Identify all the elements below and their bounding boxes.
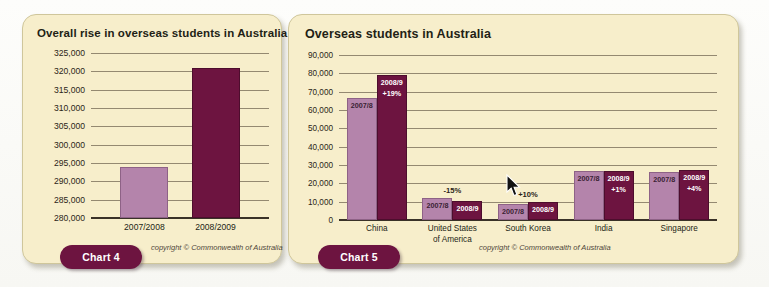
chart5-xtick-line: India [595, 224, 613, 235]
chart4-ytick-label: 305,000 [29, 121, 85, 131]
chart5-xtick-line: United States [428, 224, 477, 235]
chart5-xtick-line: South Korea [505, 224, 551, 235]
chart5-copyright: copyright © Commonwealth of Australia [479, 243, 611, 252]
chart5-xtick-line: of America [428, 235, 477, 246]
chart5-gridline [339, 55, 717, 56]
chart5-xtick-label: United Statesof America [428, 224, 477, 245]
chart4-ytick-label: 290,000 [29, 176, 85, 186]
chart4-ytick-label: 295,000 [29, 158, 85, 168]
chart5-bar[interactable]: 2007/8 [574, 171, 604, 220]
chart5-ytick-label: 40,000 [289, 142, 333, 151]
chart4-gridline [91, 145, 269, 146]
chart5-xtick-line: Singapore [661, 224, 698, 235]
chart5-ytick-label: 10,000 [289, 197, 333, 206]
chart4-bar[interactable] [192, 68, 240, 218]
chart5-bar[interactable]: 2007/8 [649, 172, 679, 220]
chart5-bar-year-label: 2008/9 [529, 205, 557, 214]
chart5-ytick-label: 50,000 [289, 124, 333, 133]
chart5-group-change-label: -15% [444, 186, 462, 195]
chart5-xtick-line: China [366, 224, 387, 235]
chart5-badge: Chart 5 [318, 245, 400, 269]
chart4-xtick-label: 2008/2009 [195, 222, 236, 233]
chart5-bar-year-label: 2007/8 [348, 101, 376, 110]
chart5-xtick-label: Singapore [661, 224, 698, 235]
chart5-bar[interactable]: 2007/8 [347, 98, 377, 220]
chart4-plot-area: 325,000320,000315,000310,000305,000300,0… [91, 53, 269, 218]
chart4-gridline [91, 163, 269, 164]
chart4-ytick-label: 280,000 [29, 213, 85, 223]
chart5-ytick-label: 90,000 [289, 51, 333, 60]
chart5-bar[interactable]: 2008/9+4% [679, 170, 709, 220]
chart5-bar-year-label: 2008/9 [453, 204, 481, 213]
chart5-xtick-label: South Korea [505, 224, 551, 235]
chart5-bar[interactable]: 2007/8 [498, 204, 528, 221]
chart4-gridline [91, 200, 269, 201]
chart5-bar[interactable]: 2008/9 [452, 201, 482, 220]
chart5-bar-year-label: 2008/9 [378, 78, 406, 87]
chart5-ytick-label: 70,000 [289, 87, 333, 96]
chart5-bar-change-label: +1% [605, 185, 633, 194]
chart4-xtick-label: 2007/2008 [124, 222, 165, 233]
chart4-ytick-label: 300,000 [29, 140, 85, 150]
chart5-bar-year-label: 2008/9 [605, 174, 633, 183]
chart5-ytick-label: 80,000 [289, 69, 333, 78]
chart5-ytick-label: 30,000 [289, 161, 333, 170]
screenshot-canvas: Overall rise in overseas students in Aus… [0, 0, 769, 287]
chart5-bar[interactable]: 2008/9+1% [604, 171, 634, 221]
chart5-bar-year-label: 2007/8 [499, 207, 527, 216]
chart4-gridline [91, 126, 269, 127]
chart5-bar-year-label: 2008/9 [680, 173, 708, 182]
chart5-ytick-label: 0 [289, 216, 333, 225]
chart4-badge: Chart 4 [60, 245, 142, 269]
chart4-ytick-label: 285,000 [29, 195, 85, 205]
chart5-bar[interactable]: 2007/8 [422, 198, 452, 220]
chart5-bar-year-label: 2007/8 [650, 175, 678, 184]
chart5-xtick-label: India [595, 224, 613, 235]
chart4-gridline [91, 53, 269, 54]
chart4-copyright: copyright © Commonwealth of Australia [151, 243, 283, 252]
chart5-xtick-label: China [366, 224, 387, 235]
chart4-gridline [91, 90, 269, 91]
chart5-title: Overseas students in Australia [305, 27, 491, 41]
chart4-panel: Overall rise in overseas students in Aus… [22, 14, 282, 264]
mouse-cursor-icon [506, 174, 522, 198]
chart4-ytick-label: 310,000 [29, 103, 85, 113]
chart5-bar-year-label: 2007/8 [423, 201, 451, 210]
chart5-bar-year-label: 2007/8 [575, 174, 603, 183]
chart4-ytick-label: 315,000 [29, 85, 85, 95]
chart4-bar[interactable] [120, 167, 168, 218]
chart4-gridline [91, 71, 269, 72]
chart5-bar[interactable]: 2008/9+19% [377, 75, 407, 220]
chart4-gridline [91, 181, 269, 182]
chart5-bar[interactable]: 2008/9 [528, 202, 558, 220]
chart4-ytick-label: 320,000 [29, 66, 85, 76]
chart5-bar-change-label: +19% [378, 89, 406, 98]
chart5-panel: Overseas students in Australia 90,00080,… [288, 14, 739, 264]
chart5-ytick-label: 60,000 [289, 106, 333, 115]
chart4-axis-line [91, 217, 269, 219]
chart4-gridline [91, 108, 269, 109]
chart4-ytick-label: 325,000 [29, 48, 85, 58]
chart5-plot-area: 90,00080,00070,00060,00050,00040,00030,0… [339, 55, 717, 220]
chart4-title: Overall rise in overseas students in Aus… [37, 27, 287, 39]
chart5-ytick-label: 20,000 [289, 179, 333, 188]
chart5-bar-change-label: +4% [680, 184, 708, 193]
chart5-gridline [339, 73, 717, 74]
